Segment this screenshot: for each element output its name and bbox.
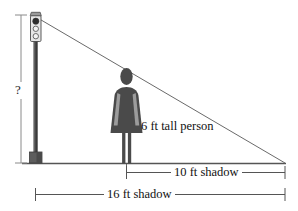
lamp-top-icon	[33, 18, 39, 24]
lamp-middle-icon	[33, 26, 38, 31]
person-body-dress	[111, 87, 143, 133]
pole-shaft	[34, 40, 38, 157]
pole-base-shadowside	[37, 152, 43, 163]
person-leg-left	[122, 133, 125, 164]
light-ray-line	[36, 17, 285, 163]
person-leg-right	[128, 133, 131, 164]
signal-cap	[30, 12, 41, 16]
pole-height-label: ?	[15, 83, 21, 96]
pole-shaft-highlight	[34, 40, 35, 157]
person-figure	[111, 68, 143, 163]
street-lamp-pole	[30, 12, 43, 163]
person-head	[120, 68, 132, 85]
lamp-bottom-icon	[33, 34, 38, 39]
person-shadow-label: 10 ft shadow	[171, 166, 242, 179]
person-height-label: 6 ft tall person	[141, 120, 214, 133]
diagram-svg	[0, 0, 298, 211]
diagram-canvas: ? 6 ft tall person 10 ft shadow 16 ft sh…	[0, 0, 298, 211]
pole-shadow-label: 16 ft shadow	[104, 188, 175, 201]
